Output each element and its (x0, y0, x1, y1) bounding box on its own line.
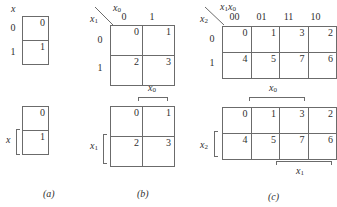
bracket-label-x1: x1 (90, 141, 98, 152)
row-header-1: 1 (95, 63, 105, 73)
col-header-10: 10 (302, 12, 329, 22)
bracket-top-x0 (138, 97, 168, 101)
bracket-label-x0: x0 (148, 83, 156, 94)
bracket-left-x2 (214, 131, 218, 157)
kmap-cell: 2 (111, 137, 143, 167)
kmap-grid: 0 1 2 3 (110, 106, 175, 167)
table-row: 0 1 (111, 26, 175, 56)
row-header-0: 0 (207, 34, 217, 44)
table-row: 1 (23, 41, 49, 65)
row-header-0: 0 (8, 23, 18, 33)
kmap-cell: 0 (223, 27, 252, 53)
caption-c: (c) (268, 191, 279, 202)
bracket-label-x0: x0 (269, 83, 277, 94)
kmap-grid: 0 1 3 2 4 5 7 6 (222, 26, 337, 79)
caption-b: (b) (137, 188, 149, 199)
table-row: 0 (23, 107, 49, 131)
kmap-cell: 3 (280, 27, 309, 53)
bracket-label-x2: x2 (200, 140, 208, 151)
kmap-cell: 0 (111, 107, 143, 137)
table-row: 4 5 7 6 (223, 53, 337, 79)
table-row: 1 (23, 131, 49, 155)
row-header-0: 0 (95, 35, 105, 45)
col-header-00: 00 (221, 12, 248, 22)
variable-label-x-top: x (11, 4, 15, 14)
bracket-bottom-x1 (276, 161, 332, 165)
kmap-one-variable-bracketed: x 0 1 (22, 106, 49, 155)
kmap-cell: 3 (143, 137, 175, 167)
kmap-cell: 1 (23, 131, 49, 155)
kmap-one-variable-indexed: x 0 1 0 1 (22, 16, 49, 65)
table-row: 2 3 (111, 56, 175, 86)
kmap-cell: 2 (111, 56, 143, 86)
kmap-three-variable-bracketed: x0 x2 x1 0 1 3 2 4 5 7 6 (222, 107, 337, 160)
kmap-grid: 0 1 (22, 16, 49, 65)
kmap-cell: 5 (251, 134, 280, 160)
kmap-grid: 0 1 2 3 (110, 25, 175, 86)
table-row: 0 1 3 2 (223, 108, 337, 134)
col-header-01: 01 (248, 12, 275, 22)
bracket-top-x0 (249, 97, 305, 101)
kmap-cell: 1 (143, 107, 175, 137)
bracket-left-x1 (103, 134, 107, 164)
table-row: 2 3 (111, 137, 175, 167)
kmap-cell: 0 (223, 108, 252, 134)
row-header-1: 1 (207, 58, 217, 68)
col-header-1: 1 (138, 12, 166, 22)
kmap-cell: 1 (23, 41, 49, 65)
kmap-grid: 0 1 (22, 106, 49, 155)
kmap-cell: 5 (251, 53, 280, 79)
caption-a: (a) (43, 188, 55, 199)
row-header-1: 1 (8, 47, 18, 57)
kmap-cell: 2 (308, 27, 337, 53)
kmap-cell: 1 (251, 108, 280, 134)
kmap-cell: 7 (280, 53, 309, 79)
bracket-left-x (16, 129, 20, 155)
kmap-cell: 0 (23, 107, 49, 131)
bracket-label-x1: x1 (296, 166, 304, 177)
kmap-cell: 1 (251, 27, 280, 53)
kmap-grid: 0 1 3 2 4 5 7 6 (222, 107, 337, 160)
kmap-cell: 1 (143, 26, 175, 56)
col-header-11: 11 (275, 12, 302, 22)
table-row: 0 1 (111, 107, 175, 137)
bracket-label-x: x (6, 135, 10, 145)
kmap-cell: 3 (143, 56, 175, 86)
kmap-cell: 0 (23, 17, 49, 41)
kmap-three-variable-indexed: x1x0 x2 00 01 11 10 0 1 0 1 3 2 4 5 7 6 (222, 26, 337, 79)
kmap-cell: 6 (308, 134, 337, 160)
col-header-0: 0 (110, 12, 138, 22)
kmap-cell: 0 (111, 26, 143, 56)
kmap-cell: 3 (280, 108, 309, 134)
kmap-two-variable-indexed: x0 x1 0 1 0 1 0 1 2 3 (110, 25, 175, 86)
kmap-cell: 2 (308, 108, 337, 134)
table-row: 0 1 3 2 (223, 27, 337, 53)
kmap-cell: 4 (223, 53, 252, 79)
kmap-cell: 4 (223, 134, 252, 160)
table-row: 0 (23, 17, 49, 41)
table-row: 4 5 7 6 (223, 134, 337, 160)
kmap-two-variable-bracketed: x0 x1 0 1 2 3 (110, 106, 175, 167)
kmap-cell: 6 (308, 53, 337, 79)
kmap-cell: 7 (280, 134, 309, 160)
